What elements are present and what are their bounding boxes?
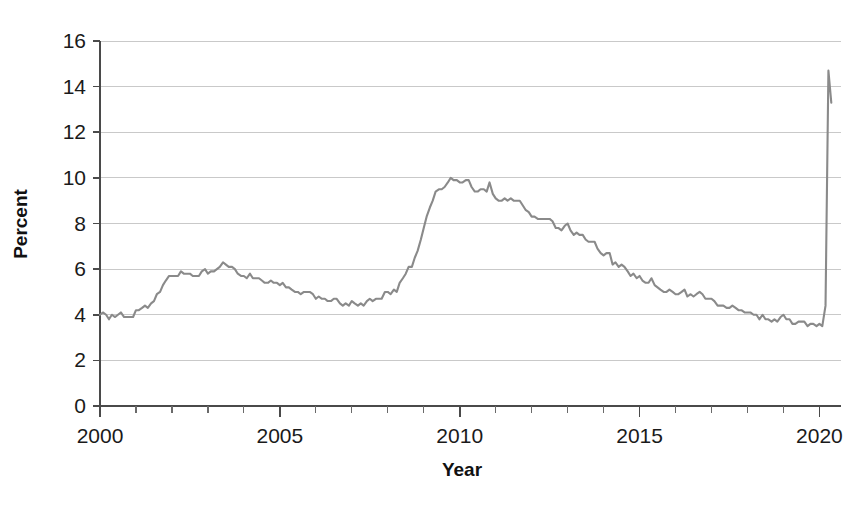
x-axis-tick-labels-group: 20002005201020152020 bbox=[77, 424, 843, 447]
y-tick-label-10: 10 bbox=[63, 166, 86, 189]
x-tick-label-2000: 2000 bbox=[77, 424, 124, 447]
x-axis-title: Year bbox=[442, 459, 483, 480]
y-tick-label-6: 6 bbox=[74, 257, 86, 280]
y-tick-label-0: 0 bbox=[74, 394, 86, 417]
unemployment-rate-series-line bbox=[100, 71, 831, 327]
x-axis-ticks-group bbox=[100, 406, 819, 417]
y-axis-title: Percent bbox=[10, 188, 31, 258]
x-tick-label-2015: 2015 bbox=[616, 424, 663, 447]
y-tick-label-14: 14 bbox=[63, 75, 87, 98]
y-tick-label-4: 4 bbox=[74, 303, 86, 326]
chart-canvas: 0246810121416 20002005201020152020 Perce… bbox=[0, 0, 866, 507]
unemployment-rate-line-chart: 0246810121416 20002005201020152020 Perce… bbox=[0, 0, 866, 507]
y-axis-ticks-group bbox=[93, 41, 100, 406]
y-tick-label-12: 12 bbox=[63, 120, 86, 143]
x-tick-label-2020: 2020 bbox=[796, 424, 843, 447]
y-tick-label-2: 2 bbox=[74, 348, 86, 371]
x-tick-label-2005: 2005 bbox=[256, 424, 303, 447]
y-axis-tick-labels-group: 0246810121416 bbox=[63, 29, 87, 417]
y-tick-label-16: 16 bbox=[63, 29, 86, 52]
y-tick-label-8: 8 bbox=[74, 212, 86, 235]
gridlines-group bbox=[100, 41, 841, 360]
x-tick-label-2010: 2010 bbox=[436, 424, 483, 447]
